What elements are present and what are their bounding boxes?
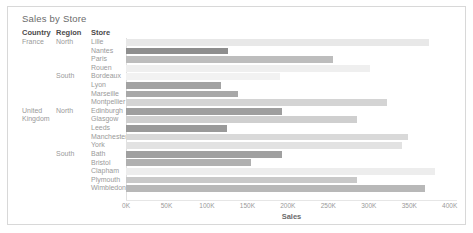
cell-store: Lyon	[91, 81, 106, 90]
cell-region: South	[56, 72, 74, 81]
bar-leeds[interactable]	[126, 125, 227, 132]
axis-tick: 350K	[402, 202, 417, 209]
table-row[interactable]: Clapham	[8, 167, 465, 176]
bar-lille[interactable]	[126, 39, 429, 46]
cell-store: Glasgow	[91, 115, 118, 124]
chart-rows: FranceNorthLilleNantesParisRouenSouthBor…	[8, 38, 465, 193]
bar-track	[126, 98, 457, 107]
bar-track	[126, 176, 457, 185]
bar-york[interactable]	[126, 142, 402, 149]
cell-country: Kingdom	[22, 115, 50, 124]
table-row[interactable]: Leeds	[8, 124, 465, 133]
axis-tick: 200K	[280, 202, 295, 209]
table-row[interactable]: SouthBordeaux	[8, 72, 465, 81]
table-row[interactable]: UnitedNorthEdinburgh	[8, 107, 465, 116]
bar-marseille[interactable]	[126, 91, 238, 98]
table-row[interactable]: KingdomGlasgow	[8, 115, 465, 124]
cell-store: Manchester	[91, 133, 128, 142]
bar-track	[126, 38, 457, 47]
axis-tick: 400K	[442, 202, 457, 209]
column-header-region[interactable]: Region	[56, 28, 81, 37]
table-row[interactable]: Paris	[8, 55, 465, 64]
bar-track	[126, 133, 457, 142]
bar-track	[126, 184, 457, 193]
cell-store: Bordeaux	[91, 72, 121, 81]
table-row[interactable]: Bristol	[8, 159, 465, 168]
bar-track	[126, 72, 457, 81]
bar-track	[126, 115, 457, 124]
bar-clapham[interactable]	[126, 168, 435, 175]
table-row[interactable]: FranceNorthLille	[8, 38, 465, 47]
table-row[interactable]: Marseille	[8, 90, 465, 99]
x-axis: Sales 0K50K100K150K200K250K300K350K400K	[126, 200, 457, 224]
bar-track	[126, 159, 457, 168]
cell-store: Nantes	[91, 47, 113, 56]
cell-country: United	[22, 107, 42, 116]
bar-bristol[interactable]	[126, 159, 251, 166]
column-header-country[interactable]: Country	[22, 28, 51, 37]
cell-store: Clapham	[91, 167, 119, 176]
axis-tick: 50K	[161, 202, 173, 209]
cell-store: Edinburgh	[91, 107, 123, 116]
table-row[interactable]: Nantes	[8, 47, 465, 56]
bar-lyon[interactable]	[126, 82, 221, 89]
column-header-store[interactable]: Store	[91, 28, 110, 37]
cell-region: North	[56, 38, 73, 47]
bar-glasgow[interactable]	[126, 116, 357, 123]
cell-country: France	[22, 38, 44, 47]
axis-tick: 0K	[122, 202, 130, 209]
cell-store: Bristol	[91, 159, 110, 168]
table-row[interactable]: Manchester	[8, 133, 465, 142]
bar-track	[126, 150, 457, 159]
cell-region: South	[56, 150, 74, 159]
table-row[interactable]: Lyon	[8, 81, 465, 90]
bar-track	[126, 47, 457, 56]
bar-nantes[interactable]	[126, 48, 228, 55]
cell-store: Wimbledon	[91, 184, 126, 193]
bar-track	[126, 55, 457, 64]
cell-store: Marseille	[91, 90, 119, 99]
cell-store: Bath	[91, 150, 105, 159]
bar-bordeaux[interactable]	[126, 73, 280, 80]
table-row[interactable]: Montpellier	[8, 98, 465, 107]
cell-store: Plymouth	[91, 176, 120, 185]
axis-tick: 100K	[199, 202, 214, 209]
bar-wimbledon[interactable]	[126, 185, 425, 192]
bar-edinburgh[interactable]	[126, 108, 282, 115]
cell-store: Rouen	[91, 64, 112, 73]
bar-track	[126, 90, 457, 99]
axis-tick: 150K	[240, 202, 255, 209]
cell-store: Paris	[91, 55, 107, 64]
table-row[interactable]: Wimbledon	[8, 184, 465, 193]
cell-store: Montpellier	[91, 98, 125, 107]
axis-tick: 300K	[361, 202, 376, 209]
bar-rouen[interactable]	[126, 65, 370, 72]
table-row[interactable]: Rouen	[8, 64, 465, 73]
cell-store: York	[91, 141, 105, 150]
table-row[interactable]: SouthBath	[8, 150, 465, 159]
visualization-container: Sales by Store Country Region Store Fran…	[7, 6, 466, 225]
bar-track	[126, 64, 457, 73]
table-row[interactable]: Plymouth	[8, 176, 465, 185]
bar-track	[126, 107, 457, 116]
bar-plymouth[interactable]	[126, 177, 357, 184]
bar-track	[126, 141, 457, 150]
bar-paris[interactable]	[126, 56, 333, 63]
cell-region: North	[56, 107, 73, 116]
axis-title: Sales	[126, 212, 457, 221]
bar-track	[126, 81, 457, 90]
bar-manchester[interactable]	[126, 134, 408, 141]
bar-track	[126, 124, 457, 133]
cell-store: Leeds	[91, 124, 110, 133]
bar-track	[126, 167, 457, 176]
bar-montpellier[interactable]	[126, 99, 387, 106]
axis-tick: 250K	[321, 202, 336, 209]
cell-store: Lille	[91, 38, 103, 47]
bar-bath[interactable]	[126, 151, 282, 158]
page-title: Sales by Store	[22, 13, 87, 24]
table-row[interactable]: York	[8, 141, 465, 150]
